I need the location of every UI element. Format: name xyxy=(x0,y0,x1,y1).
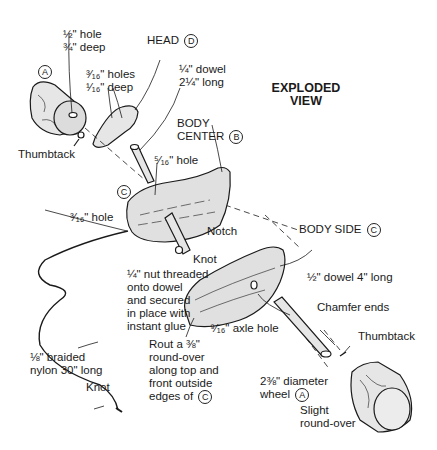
nut-note-line2: onto dowel xyxy=(127,281,208,294)
title-line2: VIEW xyxy=(266,95,346,108)
slight-line2: round-over xyxy=(300,417,356,430)
head-label: HEAD D xyxy=(147,34,198,48)
wheel-hole-line2: ¾" deep xyxy=(63,41,105,54)
wheel-hole-label: ½" hole ¾" deep xyxy=(63,28,105,54)
rout-line3: along top and xyxy=(149,364,219,377)
part-ref-a-wheel: A xyxy=(295,388,309,402)
nylon-label: ⅛" braided nylon 30" long xyxy=(30,351,103,377)
part-ref-c-rout: C xyxy=(198,390,212,404)
nut-note-line4: in place with xyxy=(127,307,208,320)
nylon-line1: ⅛" braided xyxy=(30,351,103,364)
part-ref-c-side: C xyxy=(367,223,381,237)
part-ref-c: C xyxy=(117,185,131,199)
rout-note-label: Rout a ⅜" round-over along top and front… xyxy=(149,338,219,404)
body-center-line1: BODY xyxy=(177,117,243,130)
body-side-label: BODY SIDE C xyxy=(299,223,381,237)
part-ref-c-left: C xyxy=(115,185,131,199)
rout-line1: Rout a ⅜" xyxy=(149,338,219,351)
half-dowel-label: ½" dowel 4" long xyxy=(307,271,393,284)
body-side-text: BODY SIDE xyxy=(299,223,361,235)
nylon-line2: nylon 30" long xyxy=(30,364,103,377)
part-ref-a-left: A xyxy=(36,65,52,79)
part-ref-b: B xyxy=(229,130,243,144)
thumbtack-left-label: Thumbtack xyxy=(18,148,75,161)
chamfer-label: Chamfer ends xyxy=(317,301,389,314)
nut-note-line1: ¼" nut threaded xyxy=(127,268,208,281)
knot-lower-label: Knot xyxy=(86,381,110,394)
part-ref-d: D xyxy=(184,34,198,48)
nut-note-line5: instant glue xyxy=(127,320,208,333)
wheel-line1: 2⅜" diameter xyxy=(260,375,328,388)
quarter-dowel-line2: 2¼" long xyxy=(179,76,226,89)
wheel-hole-line1: ½" hole xyxy=(63,28,105,41)
quarter-dowel-line1: ¼" dowel xyxy=(179,63,226,76)
body-center-label: BODY CENTER B xyxy=(177,117,243,144)
nut-note-line3: and secured xyxy=(127,294,208,307)
slight-line1: Slight xyxy=(300,404,356,417)
wheel-line2: wheel xyxy=(260,388,290,400)
head-holes-label: ³⁄₁₆" holes ¹⁄₁₆" deep xyxy=(86,68,135,94)
hole-5-16-label: ⁵⁄₁₆" hole xyxy=(154,154,198,167)
rout-line4: front outside xyxy=(149,377,219,390)
hole-3-16-label: ³⁄₁₆" hole xyxy=(70,211,113,224)
wheel-label: 2⅜" diameter wheel A xyxy=(260,375,328,402)
notch-label: Notch xyxy=(207,225,237,238)
slight-roundover-label: Slight round-over xyxy=(300,404,356,430)
axle-hole-label: ⁹⁄₁₆" axle hole xyxy=(210,322,279,335)
quarter-dowel-label: ¼" dowel 2¼" long xyxy=(179,63,226,89)
nylon-cord xyxy=(39,231,128,410)
head xyxy=(93,106,138,148)
body-center-line2: CENTER xyxy=(177,130,224,142)
right-wheel xyxy=(351,362,412,432)
head-holes-line1: ³⁄₁₆" holes xyxy=(86,68,135,81)
left-wheel xyxy=(30,82,86,135)
exploded-view-title: EXPLODED VIEW xyxy=(266,82,346,108)
part-ref-a: A xyxy=(38,65,52,79)
head-holes-line2: ¹⁄₁₆" deep xyxy=(86,81,135,94)
head-text: HEAD xyxy=(147,34,179,46)
rout-line2: round-over xyxy=(149,351,219,364)
knot-upper-label: Knot xyxy=(193,253,217,266)
rout-line5: edges of xyxy=(149,390,193,402)
nut-note-label: ¼" nut threaded onto dowel and secured i… xyxy=(127,268,208,333)
thumbtack-right-label: Thumbtack xyxy=(358,330,415,343)
